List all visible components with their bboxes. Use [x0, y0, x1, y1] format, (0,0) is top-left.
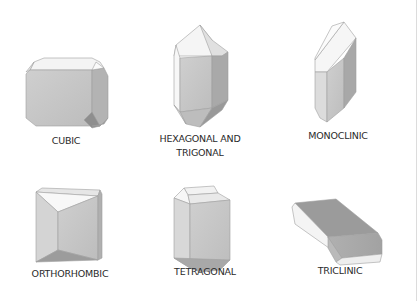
- hexagonal-crystal-shape: [174, 25, 228, 127]
- label-monoclinic: MONOCLINIC: [308, 129, 368, 143]
- triclinic-crystal-shape: [292, 199, 382, 265]
- orthorhombic-crystal-shape: [36, 188, 102, 262]
- crystal-systems-diagram: CUBIC HEXAGONAL AND TRIGONAL MONOCLINIC …: [0, 0, 420, 301]
- label-tetragonal: TETRAGONAL: [174, 265, 236, 279]
- page-edge-divider: [416, 0, 417, 301]
- label-cubic: CUBIC: [52, 134, 81, 148]
- label-hexagonal-line2: TRIGONAL: [176, 146, 223, 160]
- label-hexagonal-line1: HEXAGONAL AND: [159, 132, 240, 146]
- label-triclinic: TRICLINIC: [318, 264, 363, 278]
- tetragonal-crystal-shape: [174, 186, 230, 272]
- label-orthorhombic: ORTHORHOMBIC: [32, 267, 109, 281]
- monoclinic-crystal-shape: [315, 22, 356, 122]
- cubic-crystal-shape: [26, 58, 108, 128]
